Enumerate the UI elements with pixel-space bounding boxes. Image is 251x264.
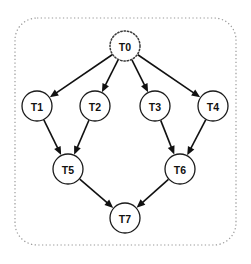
- node-label: T3: [149, 101, 162, 113]
- arrowhead-icon: [191, 90, 200, 98]
- edge-line: [44, 120, 58, 149]
- edge-t0-to-t2: [102, 60, 118, 92]
- edge-t6-to-t7: [137, 179, 169, 207]
- edge-t0-to-t3: [132, 60, 148, 92]
- arrowhead-icon: [50, 90, 59, 98]
- edges-layer: [44, 55, 206, 208]
- node-t3[interactable]: T3: [140, 91, 170, 121]
- task-dependency-graph: T0T1T2T3T4T5T6T7: [0, 0, 251, 264]
- edge-line: [161, 120, 172, 148]
- edge-t4-to-t6: [187, 120, 206, 156]
- node-label: T6: [174, 164, 187, 176]
- node-t5[interactable]: T5: [53, 154, 83, 184]
- edge-line: [105, 60, 118, 86]
- edge-line: [142, 179, 169, 203]
- node-t0[interactable]: T0: [110, 31, 140, 61]
- edge-t5-to-t7: [80, 179, 114, 208]
- node-t1[interactable]: T1: [22, 91, 52, 121]
- node-label: T1: [31, 101, 44, 113]
- edge-t1-to-t5: [44, 120, 61, 155]
- edge-line: [190, 120, 205, 149]
- arrowhead-icon: [168, 145, 175, 154]
- diagram-canvas: T0T1T2T3T4T5T6T7: [0, 0, 251, 264]
- node-t6[interactable]: T6: [165, 154, 195, 184]
- node-label: T2: [89, 101, 102, 113]
- edge-t3-to-t6: [161, 120, 175, 154]
- node-label: T5: [62, 164, 75, 176]
- node-t2[interactable]: T2: [80, 91, 110, 121]
- node-label: T4: [207, 101, 220, 113]
- edge-line: [132, 60, 145, 86]
- node-label: T0: [119, 41, 132, 53]
- edge-t2-to-t5: [74, 120, 89, 155]
- node-t4[interactable]: T4: [198, 91, 228, 121]
- edge-line: [80, 179, 108, 203]
- node-label: T7: [119, 213, 132, 225]
- node-t7[interactable]: T7: [110, 203, 140, 233]
- nodes-layer: T0T1T2T3T4T5T6T7: [22, 31, 228, 233]
- edge-line: [77, 120, 89, 148]
